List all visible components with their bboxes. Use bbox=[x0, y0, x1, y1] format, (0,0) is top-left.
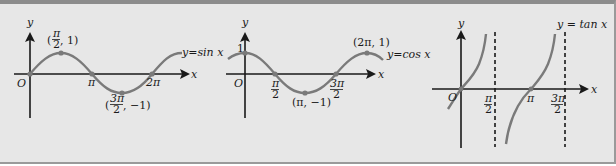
sin-point-origin bbox=[27, 71, 32, 76]
cos-func-label: y=cos x bbox=[386, 48, 431, 61]
tan-y-label: y bbox=[457, 17, 465, 30]
cos-y-label: y bbox=[241, 16, 249, 29]
trig-graphs: y x O π 2π ( π 2 , 1) ( 3π 2 , −1) y=sin… bbox=[0, 0, 616, 166]
tan-tick-three-half-den: 2 bbox=[554, 103, 561, 116]
tan-x-label: x bbox=[591, 83, 598, 96]
cos-curve bbox=[228, 53, 383, 93]
sin-peak-den: 2 bbox=[53, 38, 60, 51]
sin-x-label: x bbox=[191, 68, 198, 81]
sin-trough-open: ( bbox=[105, 99, 109, 112]
tan-tick-half-pi-den: 2 bbox=[485, 103, 492, 116]
sin-origin-label: O bbox=[17, 77, 26, 90]
cos-trough-label: (π, −1) bbox=[292, 96, 331, 109]
sin-trough-close: , −1) bbox=[123, 99, 151, 112]
cos-point-2pi bbox=[364, 50, 369, 55]
tan-func-label: y = tan x bbox=[556, 18, 608, 31]
cos-point-trough bbox=[302, 90, 307, 95]
sin-trough-den: 2 bbox=[113, 103, 120, 116]
sin-func-label: y=sin x bbox=[181, 46, 224, 59]
cos-tick-three-half-den: 2 bbox=[333, 88, 340, 101]
cos-origin-label: O bbox=[234, 77, 243, 90]
sin-peak-open: ( bbox=[47, 34, 51, 47]
cos-graph: y x O 1 π 2 3π 2 (π, −1) (2π, 1) y=cos x bbox=[226, 16, 431, 118]
sin-point-peak bbox=[58, 50, 63, 55]
tan-point-origin bbox=[459, 87, 464, 92]
tan-graph: y x O π 2 π 3π 2 y = tan x bbox=[432, 17, 608, 148]
tan-tick-pi: π bbox=[526, 92, 535, 105]
cos-point-three-half-pi bbox=[333, 71, 338, 76]
cos-peak-label: (2π, 1) bbox=[353, 36, 390, 49]
tan-point-pi bbox=[529, 87, 534, 92]
sin-y-label: y bbox=[26, 16, 34, 29]
cos-point-half-pi bbox=[272, 71, 277, 76]
sin-peak-close: , 1) bbox=[60, 34, 78, 47]
cos-tick-half-pi-den: 2 bbox=[272, 88, 279, 101]
cos-tick-one: 1 bbox=[237, 42, 244, 55]
sin-tick-pi: π bbox=[87, 76, 96, 89]
sin-tick-2pi: 2π bbox=[145, 76, 161, 89]
sin-graph: y x O π 2π ( π 2 , 1) ( 3π 2 , −1) y=sin… bbox=[14, 16, 224, 118]
tan-origin-label: O bbox=[448, 91, 457, 104]
cos-x-label: x bbox=[378, 68, 385, 81]
